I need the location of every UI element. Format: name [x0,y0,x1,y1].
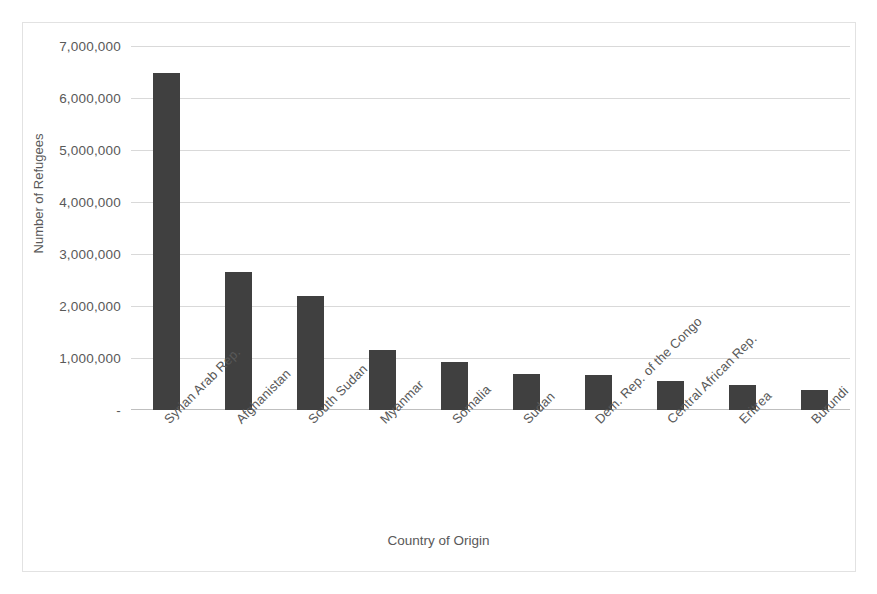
x-axis-tick-labels: Syrian Arab Rep.AfghanistanSouth SudanMy… [131,410,850,530]
y-axis-tick-labels: 7,000,0006,000,0005,000,0004,000,0003,00… [0,46,121,410]
y-axis-tick-label: - [1,403,121,418]
bar [153,73,180,410]
gridline [131,254,850,255]
y-axis-tick-label: 2,000,000 [1,299,121,314]
y-axis-tick-label: 3,000,000 [1,247,121,262]
bar [225,272,252,410]
gridline [131,98,850,99]
y-axis-tick-label: 7,000,000 [1,39,121,54]
gridline [131,202,850,203]
y-axis-tick-label: 5,000,000 [1,143,121,158]
y-axis-tick-label: 4,000,000 [1,195,121,210]
y-axis-tick-label: 6,000,000 [1,91,121,106]
gridline [131,46,850,47]
y-axis-tick-label: 1,000,000 [1,351,121,366]
bar [297,296,324,410]
x-axis-title: Country of Origin [0,533,877,548]
chart-container: Number of Refugees 7,000,0006,000,0005,0… [0,0,877,594]
gridline [131,150,850,151]
